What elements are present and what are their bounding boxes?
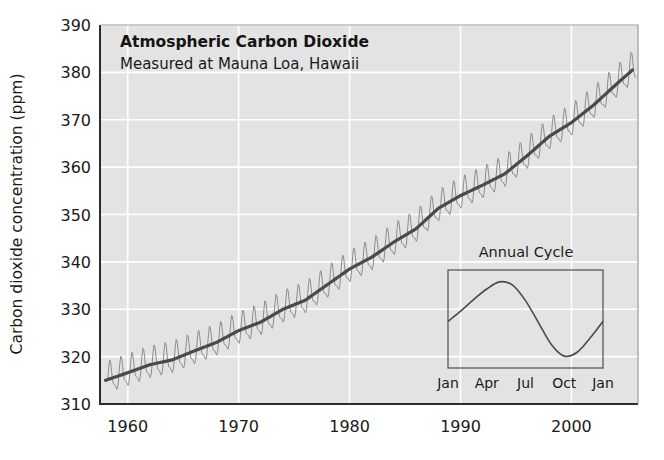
inset-x-tick-label: Jan <box>436 375 459 391</box>
y-tick-label: 390 <box>60 16 91 35</box>
y-axis-label: Carbon dioxide concentration (ppm) <box>8 74 26 355</box>
y-tick-label: 360 <box>60 158 91 177</box>
inset-x-tick-label: Oct <box>552 375 577 391</box>
x-tick-label: 1990 <box>440 417 481 436</box>
y-tick-label: 310 <box>60 395 91 414</box>
y-tick-label: 350 <box>60 206 91 225</box>
co2-chart-figure: 310320330340350360370380390 196019701980… <box>0 0 664 460</box>
x-tick-label: 1960 <box>107 417 148 436</box>
y-tick-label: 320 <box>60 348 91 367</box>
x-tick-label: 1980 <box>329 417 370 436</box>
y-tick-label: 370 <box>60 111 91 130</box>
chart-title: Atmospheric Carbon Dioxide <box>120 33 369 51</box>
chart-subtitle: Measured at Mauna Loa, Hawaii <box>120 55 359 73</box>
x-tick-label: 2000 <box>551 417 592 436</box>
inset-x-tick-label: Jan <box>591 375 614 391</box>
inset-x-tick-label: Apr <box>475 375 499 391</box>
y-tick-label: 330 <box>60 300 91 319</box>
y-tick-label: 340 <box>60 253 91 272</box>
x-tick-label: 1970 <box>218 417 259 436</box>
y-axis-tick-labels: 310320330340350360370380390 <box>60 16 91 414</box>
y-tick-label: 380 <box>60 63 91 82</box>
inset-title: Annual Cycle <box>479 244 574 260</box>
inset-x-tick-label: Jul <box>516 375 534 391</box>
